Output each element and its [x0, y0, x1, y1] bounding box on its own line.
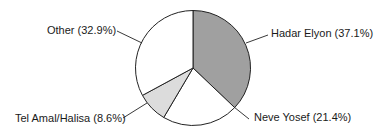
leader-line-neve — [234, 107, 249, 119]
slice-label-other: Other (32.9%) — [47, 24, 116, 36]
leader-line-hadar — [246, 35, 268, 43]
pie-slices — [136, 11, 251, 126]
slice-label-neve-yosef: Neve Yosef (21.4%) — [254, 111, 351, 123]
slice-label-hadar-elyon: Hadar Elyon (37.1%) — [271, 27, 373, 39]
slice-label-tel-amal: Tel Amal/Halisa (8.6%) — [15, 112, 126, 124]
leader-line-other — [117, 31, 142, 43]
leader-line-telamal — [123, 103, 147, 118]
